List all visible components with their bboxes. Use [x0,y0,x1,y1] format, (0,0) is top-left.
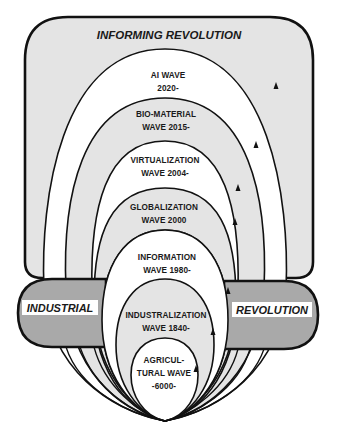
band-right-label: REVOLUTION [236,304,309,316]
svg-text:WAVE 1840-: WAVE 1840- [142,324,190,333]
svg-text:WAVE 2015-: WAVE 2015- [142,123,190,132]
svg-text:AI WAVE: AI WAVE [151,71,186,80]
band-left-label: INDUSTRIAL [27,302,94,314]
svg-text:WAVE 2000: WAVE 2000 [142,216,187,225]
svg-text:WAVE 2004-: WAVE 2004- [141,169,189,178]
svg-text:INDUSTRALIZATION: INDUSTRALIZATION [125,311,206,320]
svg-text:TURAL WAVE: TURAL WAVE [137,369,192,378]
svg-text:AGRICUL-: AGRICUL- [144,356,185,365]
diagram-title: INFORMING REVOLUTION [97,29,242,41]
svg-text:VIRTUALIZATION: VIRTUALIZATION [130,156,199,165]
svg-text:GLOBALIZATION: GLOBALIZATION [130,203,198,212]
svg-text:WAVE 1980-: WAVE 1980- [143,266,191,275]
svg-text:-6000-: -6000- [152,382,176,391]
wave-diagram: INFORMING REVOLUTION INDUSTRIAL REVOLUTI… [0,0,340,441]
svg-text:2020-: 2020- [157,84,179,93]
svg-text:INFORMATION: INFORMATION [138,253,196,262]
svg-text:BIO-MATERIAL: BIO-MATERIAL [136,110,196,119]
